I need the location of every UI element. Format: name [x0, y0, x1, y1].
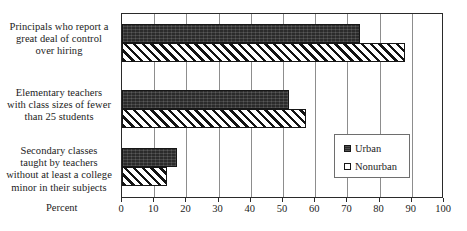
- x-tick-label: 10: [140, 203, 166, 215]
- x-tick-label: 60: [301, 203, 327, 215]
- category-label-line: than 25 students: [2, 111, 116, 123]
- x-tick: [121, 198, 122, 202]
- x-axis-title: Percent: [46, 202, 78, 214]
- category-label-line: Secondary classes: [2, 145, 116, 157]
- bar-nonurban-group-2: [122, 167, 167, 186]
- legend: Urban Nonurban: [334, 134, 410, 178]
- legend-label-nonurban: Nonurban: [355, 161, 397, 172]
- x-tick-label: 0: [108, 203, 134, 215]
- legend-item-urban[interactable]: Urban: [344, 140, 409, 156]
- bar-urban-group-2: [122, 148, 177, 167]
- x-tick-label: 70: [333, 203, 359, 215]
- x-tick: [411, 198, 412, 202]
- x-tick-label: 90: [398, 203, 424, 215]
- x-tick-label: 20: [172, 203, 198, 215]
- x-tick: [314, 198, 315, 202]
- legend-item-nonurban[interactable]: Nonurban: [344, 158, 409, 174]
- category-label-line: minor in their subjects: [2, 182, 116, 194]
- category-label-line: Elementary teachers: [2, 87, 116, 99]
- category-label-line: taught by teachers: [2, 157, 116, 169]
- x-tick: [185, 198, 186, 202]
- category-label-principals: Principals who report agreat deal of con…: [2, 21, 116, 58]
- category-label-secondary-classes: Secondary classestaught by teacherswitho…: [2, 145, 116, 194]
- category-label-line: over hiring: [2, 45, 116, 57]
- bar-urban-group-0: [122, 24, 360, 43]
- bar-chart: Principals who report agreat deal of con…: [0, 0, 467, 231]
- category-label-line: without at least a college: [2, 169, 116, 181]
- category-label-line: Principals who report a: [2, 21, 116, 33]
- category-label-line: with class sizes of fewer: [2, 99, 116, 111]
- legend-swatch-nonurban-icon: [344, 163, 351, 170]
- x-tick: [443, 198, 444, 202]
- category-label-elementary-teachers: Elementary teacherswith class sizes of f…: [2, 87, 116, 124]
- x-tick: [218, 198, 219, 202]
- bar-urban-group-1: [122, 90, 289, 109]
- x-tick-label: 40: [237, 203, 263, 215]
- x-tick-label: 100: [430, 203, 456, 215]
- x-tick: [379, 198, 380, 202]
- bar-nonurban-group-1: [122, 109, 306, 128]
- bar-nonurban-group-0: [122, 43, 405, 62]
- x-tick-label: 30: [205, 203, 231, 215]
- x-tick-label: 50: [269, 203, 295, 215]
- legend-swatch-urban-icon: [344, 145, 351, 152]
- x-tick: [250, 198, 251, 202]
- x-tick: [346, 198, 347, 202]
- x-tick: [153, 198, 154, 202]
- x-tick-label: 80: [366, 203, 392, 215]
- legend-label-urban: Urban: [355, 143, 381, 154]
- x-tick: [282, 198, 283, 202]
- gridline: [412, 14, 413, 197]
- category-label-line: great deal of control: [2, 33, 116, 45]
